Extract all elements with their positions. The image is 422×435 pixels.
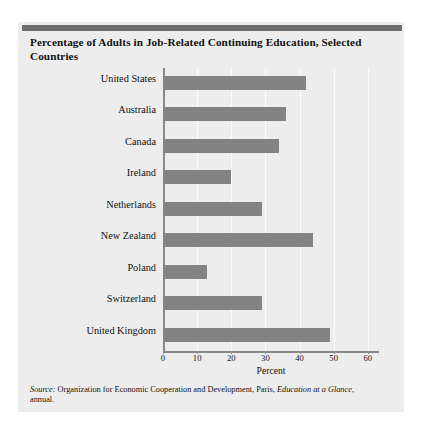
- x-tick-label: 10: [193, 353, 202, 363]
- bar-row: Netherlands: [163, 194, 378, 225]
- bar-row: Ireland: [163, 162, 378, 193]
- bar: [163, 233, 313, 247]
- bar-row: Australia: [163, 99, 378, 130]
- x-tick-label: 50: [329, 353, 338, 363]
- category-label: Ireland: [127, 167, 156, 178]
- plot-area: United StatesAustraliaCanadaIrelandNethe…: [163, 68, 378, 351]
- x-tick-label: 40: [295, 353, 304, 363]
- category-label: Netherlands: [106, 199, 156, 210]
- bar: [163, 139, 279, 153]
- category-label: United States: [101, 73, 156, 84]
- category-label: Poland: [127, 262, 156, 273]
- bar: [163, 296, 262, 310]
- bar-row: New Zealand: [163, 225, 378, 256]
- category-label: Australia: [118, 104, 156, 115]
- category-label: Switzerland: [107, 293, 156, 304]
- category-label: Canada: [125, 136, 156, 147]
- x-tick-label: 20: [227, 353, 236, 363]
- x-tick-label: 30: [261, 353, 270, 363]
- bar: [163, 265, 207, 279]
- x-tick-label: 60: [363, 353, 372, 363]
- bar-row: Canada: [163, 131, 378, 162]
- x-axis-label: Percent: [163, 365, 379, 376]
- bar: [163, 328, 330, 342]
- bar: [163, 202, 262, 216]
- x-tick-label: 0: [161, 353, 165, 363]
- bar-row: United Kingdom: [163, 320, 378, 351]
- bar: [163, 107, 286, 121]
- figure: Percentage of Adults in Job-Related Cont…: [0, 0, 422, 435]
- source-note: Source: Organization for Economic Cooper…: [30, 385, 380, 405]
- bar-row: Poland: [163, 257, 378, 288]
- source-italic-2: Education at a Glance: [277, 385, 352, 394]
- category-label: New Zealand: [101, 230, 156, 241]
- chart-title: Percentage of Adults in Job-Related Cont…: [30, 36, 380, 63]
- bar-row: Switzerland: [163, 288, 378, 319]
- bar-row: United States: [163, 68, 378, 99]
- top-rule: [22, 25, 402, 31]
- bar: [163, 76, 306, 90]
- category-label: United Kingdom: [87, 325, 157, 336]
- source-prefix: Source:: [30, 385, 56, 394]
- source-text-1: Organization for Economic Cooperation an…: [56, 385, 278, 394]
- bar: [163, 170, 231, 184]
